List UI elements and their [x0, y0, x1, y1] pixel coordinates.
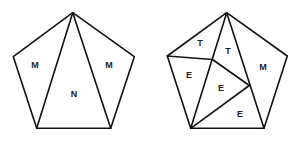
- right-segment-left-to-inner: [167, 56, 212, 60]
- right-pentagon: T T E E M E: [167, 13, 287, 129]
- left-diagonal-2: [73, 13, 111, 129]
- region-label: E: [186, 70, 192, 80]
- left-pentagon-outline: [13, 13, 134, 129]
- region-label: M: [105, 60, 113, 70]
- region-label: T: [225, 46, 231, 56]
- region-label: E: [218, 83, 224, 93]
- region-label: T: [197, 38, 203, 48]
- region-label: E: [237, 109, 243, 119]
- region-label: M: [259, 62, 267, 72]
- region-label: N: [71, 89, 78, 99]
- pentagon-dissection-diagram: M N M T T E E M E: [0, 0, 300, 142]
- right-diagonal-top-to-bottom-left: [191, 13, 227, 129]
- left-diagonal-1: [37, 13, 73, 129]
- region-label: M: [31, 60, 39, 70]
- left-pentagon: M N M: [13, 13, 134, 129]
